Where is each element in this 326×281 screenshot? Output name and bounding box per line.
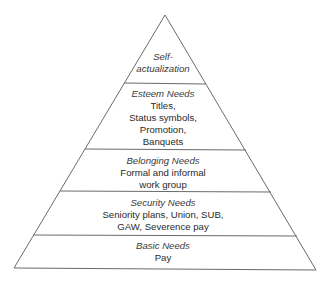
divider-security-basic <box>33 235 297 236</box>
tier-item: Titles, <box>0 100 326 112</box>
tier-title: Security Needs <box>0 197 326 209</box>
tier-item: Promotion, <box>0 124 326 136</box>
divider-belonging-security <box>60 191 271 192</box>
tier-item: Seniority plans, Union, SUB, <box>0 209 326 221</box>
tier-item: Status symbols, <box>0 112 326 124</box>
tier-belonging-needs: Belonging Needs Formal and informal work… <box>0 155 326 191</box>
tier-title: Self- <box>0 51 326 63</box>
divider-self-esteem <box>124 83 206 84</box>
tier-esteem-needs: Esteem Needs Titles, Status symbols, Pro… <box>0 88 326 148</box>
tier-title-continued: actualization <box>0 63 326 75</box>
tier-basic-needs: Basic Needs Pay <box>0 240 326 264</box>
tier-item: GAW, Severence pay <box>0 221 326 233</box>
tier-item: work group <box>0 179 326 191</box>
divider-esteem-belonging <box>85 149 246 150</box>
tier-item: Banquets <box>0 136 326 148</box>
tier-title: Basic Needs <box>0 240 326 252</box>
tier-security-needs: Security Needs Seniority plans, Union, S… <box>0 197 326 233</box>
tier-item: Formal and informal <box>0 167 326 179</box>
tier-title: Esteem Needs <box>0 88 326 100</box>
tier-self-actualization: Self- actualization <box>0 51 326 75</box>
tier-title: Belonging Needs <box>0 155 326 167</box>
tier-item: Pay <box>0 252 326 264</box>
